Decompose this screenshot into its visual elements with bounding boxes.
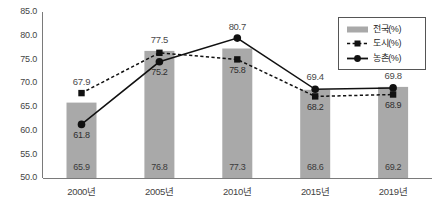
legend-label-dosi: 도시(%) [373, 38, 401, 48]
bar-value-label: 76.8 [151, 162, 168, 172]
legend-swatch-jeonguk [347, 27, 368, 33]
data-point-marker-dosi [78, 90, 84, 96]
outer-value-label: 77.5 [151, 34, 168, 45]
x-tick-label: 2010년 [223, 186, 252, 197]
y-tick-label: 50.0 [20, 172, 37, 182]
chart-legend: 전국(%) 도시(%) 농촌(%) [339, 18, 426, 70]
data-point-marker-dosi [390, 91, 396, 97]
y-tick-label: 60.0 [20, 125, 37, 135]
outer-value-label: 67.9 [73, 76, 90, 87]
outer-value-label: 69.4 [307, 71, 324, 82]
bar-value-label: 77.3 [229, 162, 246, 172]
y-tick-label: 55.0 [20, 149, 37, 159]
bar-value-label: 69.2 [385, 162, 402, 172]
legend-marker-square-dosi [355, 41, 361, 47]
legend-label-jeonguk: 전국(%) [373, 24, 401, 34]
outer-value-label: 80.7 [229, 21, 246, 32]
data-point-marker-nongchon [156, 58, 164, 66]
inner-value-label: 61.8 [73, 130, 90, 140]
y-tick-label: 75.0 [20, 54, 37, 64]
legend-label-nongchon: 농촌(%) [373, 53, 401, 63]
bar-value-label: 65.9 [73, 162, 90, 172]
data-point-marker-nongchon [311, 86, 319, 94]
outer-value-label: 69.8 [384, 70, 401, 81]
data-point-marker-dosi [234, 56, 240, 62]
legend-marker-circle-nongchon [354, 55, 361, 62]
data-point-marker-nongchon [234, 34, 242, 42]
inner-value-label: 75.2 [151, 67, 168, 77]
x-tick-label: 2015년 [301, 186, 330, 197]
x-tick-label: 2005년 [145, 186, 174, 197]
bar-value-label: 68.6 [307, 162, 324, 172]
y-tick-label: 85.0 [20, 6, 37, 16]
inner-value-label: 68.2 [307, 102, 324, 112]
inner-value-label: 68.9 [385, 100, 402, 110]
y-tick-label: 70.0 [20, 77, 37, 87]
y-tick-label: 65.0 [20, 101, 37, 111]
chart-container: 50.055.060.065.070.075.080.085.0 65.976.… [0, 0, 439, 217]
combo-bar-line-chart: 50.055.060.065.070.075.080.085.0 65.976.… [0, 0, 439, 217]
y-axis-tick-labels: 50.055.060.065.070.075.080.085.0 [20, 6, 37, 182]
bar-value-labels: 65.976.877.368.669.2 [73, 162, 401, 172]
y-tick-label: 80.0 [20, 30, 37, 40]
inner-value-label: 75.8 [229, 65, 246, 75]
data-point-marker-dosi [156, 50, 162, 56]
data-point-marker-dosi [312, 93, 318, 99]
data-point-marker-nongchon [78, 121, 86, 129]
data-point-marker-nongchon [389, 84, 397, 92]
x-tick-label: 2019년 [379, 186, 408, 197]
x-axis-category-labels: 2000년2005년2010년2015년2019년 [67, 186, 407, 197]
x-tick-label: 2000년 [67, 186, 96, 197]
